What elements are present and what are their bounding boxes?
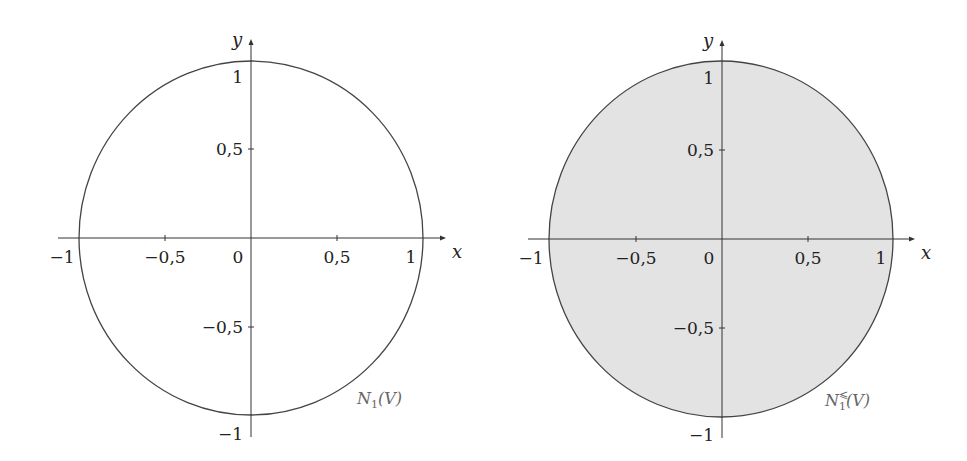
y-tick-label: −0,5 xyxy=(673,318,714,338)
right-panel: −1 −0,5 0 0,5 1 1 0,5 −0,5 −1 x y N⩽1(V) xyxy=(518,30,931,445)
y-axis-label: y xyxy=(702,30,714,51)
y-tick-label: 1 xyxy=(232,67,243,87)
figure: −1 −0,5 0 0,5 1 1 0,5 −0,5 −1 x y N1(V) … xyxy=(0,0,967,461)
x-tick-label: −1 xyxy=(49,247,74,267)
x-tick-label: 0,5 xyxy=(794,248,821,268)
x-axis-arrow-icon xyxy=(909,237,915,242)
left-panel: −1 −0,5 0 0,5 1 1 0,5 −0,5 −1 x y N1(V) xyxy=(49,29,462,444)
set-label: N1(V) xyxy=(356,389,402,411)
x-tick-label: −0,5 xyxy=(144,247,185,267)
x-axis-label: x xyxy=(921,242,931,263)
y-tick-label: 1 xyxy=(703,68,714,88)
y-tick-label: 0,5 xyxy=(687,140,714,160)
x-axis-arrow-icon xyxy=(440,236,446,241)
x-tick-label: −0,5 xyxy=(615,248,656,268)
y-axis-arrow-icon xyxy=(720,40,725,46)
x-tick-label: 0,5 xyxy=(323,247,350,267)
y-axis-arrow-icon xyxy=(249,39,254,45)
x-tick-label: 1 xyxy=(406,247,417,267)
set-label: N⩽1(V) xyxy=(824,388,870,413)
x-tick-label: 0 xyxy=(233,247,244,267)
y-tick-label: −0,5 xyxy=(202,317,243,337)
y-axis-label: y xyxy=(231,29,243,50)
x-tick-label: 0 xyxy=(704,248,715,268)
x-tick-label: −1 xyxy=(518,248,543,268)
y-tick-label: −1 xyxy=(689,425,714,445)
y-tick-label: 0,5 xyxy=(216,139,243,159)
x-tick-label: 1 xyxy=(876,248,887,268)
y-tick-label: −1 xyxy=(218,424,243,444)
x-axis-label: x xyxy=(452,241,462,262)
